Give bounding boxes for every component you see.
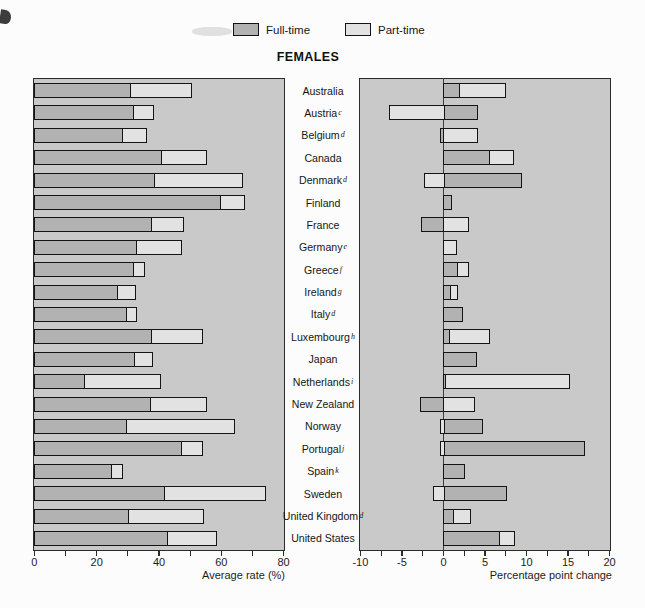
country-label-italy: Italyd (281, 303, 365, 325)
right-axis-tick (422, 551, 423, 556)
country-label-ireland: Irelandg (281, 281, 365, 303)
right-axis-tick (547, 551, 548, 556)
legend-swatch-parttime (345, 23, 371, 36)
right-axis-tick (443, 551, 444, 556)
left-axis-tick-label: 80 (267, 556, 301, 568)
left-axis-tick (252, 551, 253, 556)
right-axis-tick (526, 551, 527, 556)
left-axis-tick (221, 551, 222, 556)
left-axis-tick-label: 60 (204, 556, 238, 568)
right-axis-tick (484, 551, 485, 556)
right-axis-tick (567, 551, 568, 556)
scan-artifact (0, 9, 12, 24)
right-axis-title: Percentage point change (359, 569, 612, 581)
country-label-denmark: Denmarkd (281, 169, 365, 191)
right-axis-tick (464, 551, 465, 556)
country-label-germany: Germanye (281, 236, 365, 258)
chart-title: FEMALES (158, 50, 458, 64)
left-axis-tick (96, 551, 97, 556)
left-axis-title: Average rate (%) (33, 569, 285, 581)
country-label-australia: Australia (281, 79, 365, 101)
country-label-finland: Finland (281, 191, 365, 213)
country-label-united-states: United States (281, 527, 365, 549)
right-axis-tick (381, 551, 382, 556)
country-label-united-kingdom: United Kingdomd (281, 505, 365, 527)
country-label-portugal: Portugalj (281, 438, 365, 460)
country-label-netherlands: Netherlandsi (281, 370, 365, 392)
right-axis-tick (401, 551, 402, 556)
left-axis-tick-label: 0 (17, 556, 51, 568)
right-chart-panel (359, 78, 611, 551)
legend-swatch-fulltime (233, 23, 259, 36)
scan-artifact (192, 27, 232, 36)
country-label-austria: Austriac (281, 102, 365, 124)
right-axis-tick (505, 551, 506, 556)
right-axis-tick-label: 20 (593, 556, 627, 568)
country-label-canada: Canada (281, 147, 365, 169)
right-axis-tick (588, 551, 589, 556)
left-axis-tick-label: 40 (142, 556, 176, 568)
country-label-greece: Greecef (281, 259, 365, 281)
right-axis-tick-label: -5 (385, 556, 419, 568)
country-label-belgium: Belgiumd (281, 124, 365, 146)
right-axis-tick-label: 0 (426, 556, 460, 568)
legend-label-parttime: Part-time (378, 23, 425, 37)
right-axis-tick (360, 551, 361, 556)
right-axis-tick-label: 10 (510, 556, 544, 568)
left-axis-tick (34, 551, 35, 556)
left-chart-panel (33, 78, 285, 551)
right-axis-tick (609, 551, 610, 556)
country-label-japan: Japan (281, 348, 365, 370)
country-label-france: France (281, 214, 365, 236)
chart-page: Full-time Part-time FEMALES 020406080-10… (0, 0, 645, 608)
country-label-norway: Norway (281, 415, 365, 437)
left-axis-tick-label: 20 (80, 556, 114, 568)
legend-label-fulltime: Full-time (266, 23, 310, 37)
country-label-new-zealand: New Zealand (281, 393, 365, 415)
country-label-sweden: Sweden (281, 482, 365, 504)
country-label-luxembourg: Luxembourgh (281, 326, 365, 348)
left-axis-tick (127, 551, 128, 556)
left-axis-tick (283, 551, 284, 556)
left-axis-tick (65, 551, 66, 556)
left-axis-tick (190, 551, 191, 556)
left-axis-tick (158, 551, 159, 556)
right-axis-tick-label: 15 (551, 556, 585, 568)
country-label-spain: Spaink (281, 460, 365, 482)
right-axis-tick-label: 5 (468, 556, 502, 568)
right-axis-tick-label: -10 (343, 556, 377, 568)
